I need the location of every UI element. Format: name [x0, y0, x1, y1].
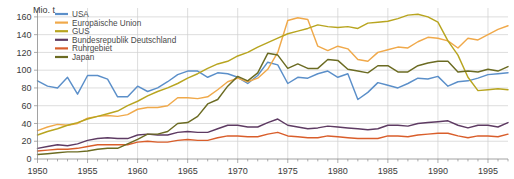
y-tick-label: 60: [21, 101, 31, 111]
x-tick-label: 1955: [78, 166, 98, 176]
x-tick-label: 1985: [378, 166, 398, 176]
y-tick-label: 80: [21, 83, 31, 93]
axis-layer: [34, 8, 508, 163]
grid-layer: [38, 8, 509, 159]
x-tick-label: 1975: [278, 166, 298, 176]
x-tick-label: 1965: [178, 166, 198, 176]
y-tick-label: 20: [21, 136, 31, 146]
x-tick-label: 1990: [428, 166, 448, 176]
y-axis-tick-labels: 020406080100120140160: [16, 12, 31, 164]
chart-legend: USAEuropäische UnionGUSBundesrepublik De…: [55, 10, 177, 62]
legend-item: Europäische Union: [55, 19, 142, 28]
y-axis-unit-label: Mio. t: [33, 5, 56, 15]
x-tick-label: 1995: [478, 166, 498, 176]
legend-label: Japan: [72, 53, 95, 62]
series-line-usa: [38, 62, 509, 99]
y-tick-label: 40: [21, 119, 31, 129]
line-chart: 020406080100120140160 195019551960196519…: [0, 0, 514, 179]
x-tick-label: 1960: [128, 166, 148, 176]
chart-canvas: 020406080100120140160 195019551960196519…: [0, 0, 514, 179]
x-tick-label: 1980: [328, 166, 348, 176]
y-tick-label: 0: [26, 154, 31, 164]
x-axis-tick-labels: 1950195519601965197019751980198519901995: [27, 166, 498, 176]
x-tick-label: 1970: [228, 166, 248, 176]
y-tick-label: 160: [16, 12, 31, 22]
legend-item: Japan: [55, 53, 95, 62]
y-tick-label: 100: [16, 65, 31, 75]
y-tick-label: 120: [16, 48, 31, 58]
series-line-gus: [38, 14, 509, 135]
y-tick-label: 140: [16, 30, 31, 40]
series-line-japan: [38, 53, 509, 154]
x-tick-label: 1950: [27, 166, 47, 176]
